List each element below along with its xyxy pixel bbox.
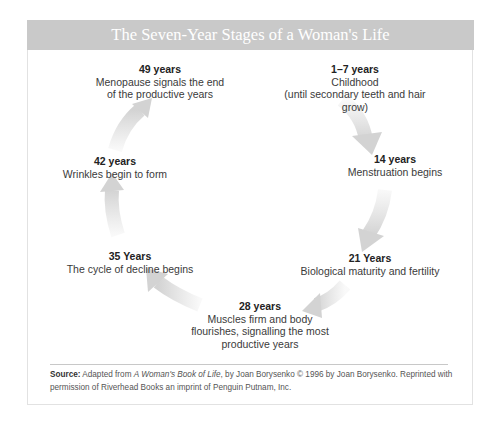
- source-book-title: A Woman's Book of Life: [134, 370, 221, 379]
- source-divider: [50, 364, 448, 365]
- stage-age: 35 Years: [60, 250, 200, 263]
- stage-28-years: 28 years Muscles firm and body flourishe…: [180, 300, 340, 350]
- stage-desc: Menopause signals the end: [85, 76, 235, 89]
- arrow-42-to-49: [115, 98, 152, 150]
- stage-age: 49 years: [85, 63, 235, 76]
- source-text-before: Adapted from: [80, 370, 133, 379]
- stage-35-years: 35 Years The cycle of decline begins: [60, 250, 200, 275]
- arrow-35-to-42: [100, 173, 124, 235]
- stage-desc: of the productive years: [85, 88, 235, 101]
- stage-age: 28 years: [180, 300, 340, 313]
- stage-desc: Childhood: [270, 76, 440, 89]
- source-note: Source: Adapted from A Woman's Book of L…: [50, 368, 460, 394]
- stage-desc: productive years: [180, 338, 340, 351]
- stage-desc: Menstruation begins: [340, 166, 450, 179]
- stage-14-years: 14 years Menstruation begins: [340, 153, 450, 178]
- stage-childhood: 1–7 years Childhood (until secondary tee…: [270, 63, 440, 113]
- stage-age: 21 Years: [295, 252, 445, 265]
- stage-desc: The cycle of decline begins: [60, 263, 200, 276]
- stage-age: 42 years: [45, 155, 185, 168]
- stage-desc: flourishes, signalling the most: [180, 325, 340, 338]
- stage-age: 1–7 years: [270, 63, 440, 76]
- stage-desc: (until secondary teeth and hair grow): [270, 88, 440, 113]
- stage-42-years: 42 years Wrinkles begin to form: [45, 155, 185, 180]
- arrow-14-to-21: [358, 190, 385, 252]
- stage-desc: Muscles firm and body: [180, 313, 340, 326]
- stage-49-years: 49 years Menopause signals the end of th…: [85, 63, 235, 101]
- stage-desc: Biological maturity and fertility: [295, 265, 445, 278]
- stage-21-years: 21 Years Biological maturity and fertili…: [295, 252, 445, 277]
- source-label: Source:: [50, 370, 80, 379]
- stage-desc: Wrinkles begin to form: [45, 168, 185, 181]
- stage-age: 14 years: [340, 153, 450, 166]
